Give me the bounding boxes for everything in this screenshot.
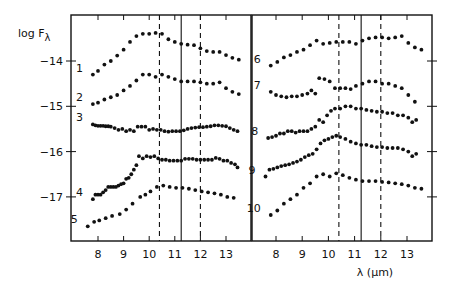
data-point-curve-10 xyxy=(341,173,345,177)
data-point-curve-3 xyxy=(236,129,240,133)
data-point-curve-9 xyxy=(359,143,363,147)
data-point-curve-8 xyxy=(298,129,302,133)
data-point-curve-4 xyxy=(91,197,95,201)
data-point-curve-8 xyxy=(294,131,298,135)
data-point-curve-4 xyxy=(149,155,153,159)
data-point-curve-9 xyxy=(410,154,414,158)
data-point-curve-10 xyxy=(380,180,384,184)
curve-label-4: 4 xyxy=(76,186,83,199)
data-point-curve-6 xyxy=(393,36,397,40)
data-point-curve-6 xyxy=(315,39,319,43)
data-point-curve-5 xyxy=(155,185,159,189)
data-point-curve-6 xyxy=(269,64,273,68)
data-point-curve-5 xyxy=(86,224,90,228)
data-point-curve-9 xyxy=(311,152,315,156)
data-point-curve-6 xyxy=(347,40,351,44)
data-point-curve-9 xyxy=(414,152,418,156)
data-point-curve-8 xyxy=(414,118,418,122)
data-point-curve-4 xyxy=(218,157,222,161)
data-point-curve-8 xyxy=(349,104,353,108)
data-point-curve-10 xyxy=(334,171,338,175)
data-point-curve-3 xyxy=(224,124,228,128)
data-point-curve-4 xyxy=(172,159,176,163)
data-point-curve-10 xyxy=(400,182,404,186)
data-point-curve-6 xyxy=(295,50,299,54)
data-point-curve-3 xyxy=(220,124,224,128)
data-point-curve-2 xyxy=(128,84,132,88)
data-point-curve-4 xyxy=(236,166,240,170)
data-point-curve-2 xyxy=(154,75,158,79)
data-point-curve-10 xyxy=(302,186,306,190)
data-point-curve-9 xyxy=(295,160,299,164)
axis-ticks: 8910111213−14−15−16−178910111213 xyxy=(40,15,437,261)
data-point-curve-8 xyxy=(396,113,400,117)
data-point-curve-10 xyxy=(393,181,397,185)
data-point-curve-10 xyxy=(328,175,332,179)
data-point-curve-8 xyxy=(313,125,317,129)
data-point-curve-1 xyxy=(122,48,126,52)
data-point-curve-8 xyxy=(380,110,384,114)
data-point-curve-7 xyxy=(344,86,348,90)
data-point-curve-4 xyxy=(214,156,218,160)
curve-labels: 12345678910 xyxy=(71,53,261,227)
data-point-curve-8 xyxy=(401,113,405,117)
x-tick-label: 8 xyxy=(95,248,102,261)
data-point-curve-2 xyxy=(147,73,151,77)
data-point-curve-7 xyxy=(413,100,417,104)
x-tick-label: 13 xyxy=(219,248,233,261)
data-point-curve-9 xyxy=(396,146,400,150)
data-point-curve-3 xyxy=(151,127,155,131)
data-point-curve-8 xyxy=(410,120,414,124)
data-point-curve-1 xyxy=(96,69,100,73)
data-point-curve-6 xyxy=(380,36,384,40)
curve-label-9: 9 xyxy=(249,164,256,177)
data-point-curve-5 xyxy=(131,202,135,206)
data-point-curve-9 xyxy=(406,150,410,154)
data-point-curve-10 xyxy=(367,179,371,183)
data-point-curve-4 xyxy=(225,159,229,163)
data-point-curve-10 xyxy=(406,184,410,188)
data-point-curve-10 xyxy=(413,186,417,190)
data-point-curve-9 xyxy=(291,161,295,165)
data-point-curve-2 xyxy=(122,89,126,93)
data-point-curve-5 xyxy=(174,186,178,190)
data-point-curve-1 xyxy=(141,32,145,36)
data-point-curve-8 xyxy=(274,134,278,138)
data-point-curve-6 xyxy=(321,42,325,46)
data-point-curve-9 xyxy=(323,138,327,142)
curve-label-10: 10 xyxy=(247,202,261,215)
data-point-curve-4 xyxy=(229,161,233,165)
curve-label-8: 8 xyxy=(251,125,258,138)
data-point-curve-7 xyxy=(338,86,342,90)
data-point-curve-6 xyxy=(302,48,306,52)
data-point-curve-2 xyxy=(199,80,203,84)
data-point-curve-3 xyxy=(205,125,209,129)
data-point-curve-6 xyxy=(289,53,293,57)
data-point-curve-2 xyxy=(218,80,222,84)
data-point-curve-1 xyxy=(237,58,241,62)
data-point-curve-9 xyxy=(268,168,272,172)
curve-label-1: 1 xyxy=(76,62,83,75)
y-tick-label: −14 xyxy=(40,55,63,68)
data-point-curve-4 xyxy=(141,156,145,160)
data-point-curve-8 xyxy=(278,132,282,136)
data-point-curve-10 xyxy=(275,209,279,213)
data-point-curve-8 xyxy=(375,110,379,114)
x-tick-label: 11 xyxy=(348,248,362,261)
data-point-curve-3 xyxy=(182,128,186,132)
data-point-curve-3 xyxy=(120,127,124,131)
data-point-curve-8 xyxy=(317,118,321,122)
y-tick-label: −15 xyxy=(40,100,63,113)
data-point-curve-1 xyxy=(167,37,171,41)
data-point-curve-10 xyxy=(289,197,293,201)
data-point-curve-4 xyxy=(233,162,237,166)
data-point-curve-3 xyxy=(128,128,132,132)
data-point-curve-10 xyxy=(295,193,299,197)
data-point-curve-3 xyxy=(170,129,174,133)
data-point-curve-5 xyxy=(97,219,101,223)
data-point-curve-7 xyxy=(367,79,371,83)
data-point-curve-4 xyxy=(202,158,206,162)
data-point-curve-8 xyxy=(266,136,270,140)
data-point-curve-7 xyxy=(306,92,310,96)
data-point-curve-4 xyxy=(135,163,139,167)
